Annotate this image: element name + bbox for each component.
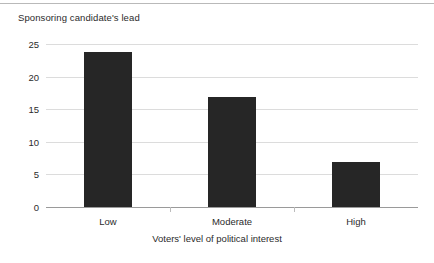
bar <box>84 52 132 207</box>
x-tick-label: High <box>346 216 366 227</box>
plot-area: 0510152025LowModerateHigh <box>46 44 418 207</box>
bar-chart-figure: Sponsoring candidate's lead 0510152025Lo… <box>0 0 434 263</box>
bar <box>332 162 380 207</box>
x-axis-tick <box>294 207 295 212</box>
x-tick-label: Low <box>99 216 116 227</box>
y-tick-label: 10 <box>28 136 39 147</box>
bar <box>208 97 256 207</box>
y-tick-label: 15 <box>28 104 39 115</box>
y-tick-label: 20 <box>28 71 39 82</box>
x-tick-label: Moderate <box>212 216 252 227</box>
x-axis-tick <box>170 207 171 212</box>
y-tick-label: 25 <box>28 39 39 50</box>
x-axis-title: Voters' level of political interest <box>0 233 434 244</box>
y-tick-label: 0 <box>34 202 39 213</box>
y-tick-label: 5 <box>34 169 39 180</box>
x-axis-line: 0 <box>46 207 418 208</box>
gridline: 25 <box>46 44 418 45</box>
figure-top-rule <box>0 3 434 4</box>
y-axis-title: Sponsoring candidate's lead <box>18 12 140 23</box>
